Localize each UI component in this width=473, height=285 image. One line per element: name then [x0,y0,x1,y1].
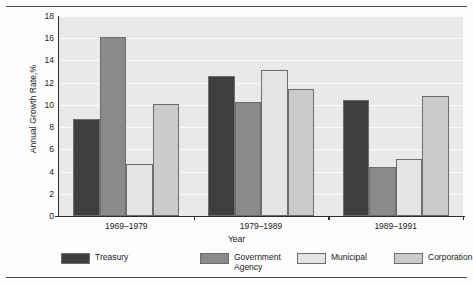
y-axis-tick-label: 0 [28,211,54,221]
plot-wrapper: Annual Growth Rate,% 024681012141618 196… [0,0,473,240]
legend-item[interactable]: Municipal [297,252,367,264]
y-axis-tick-label: 2 [28,189,54,199]
x-axis-group-label: 1989–1991 [374,221,417,231]
legend-label: Municipal [331,252,367,262]
bar [288,89,315,216]
bar [153,104,180,216]
x-axis-tick-mark [463,216,464,220]
gridline [59,16,463,17]
legend-label: Treasury [95,252,128,262]
y-axis-tick-label: 10 [28,100,54,110]
legend-item[interactable]: Treasury [61,252,128,264]
bar [235,102,262,216]
y-axis-tick-label: 6 [28,144,54,154]
bar [343,100,370,216]
legend-swatch [200,253,229,264]
chart-legend: TreasuryGovernment AgencyMunicipalCorpor… [0,252,473,276]
legend-swatch [297,253,326,264]
legend-label: Corporation [428,252,472,262]
x-axis-title: Year [0,234,473,244]
bottom-divider-rule [6,277,467,278]
legend-swatch [394,253,423,264]
x-axis-group-label: 1979–1989 [240,221,283,231]
y-axis-tick-label: 4 [28,167,54,177]
y-axis-tick-label: 18 [28,11,54,21]
y-axis-tick-label: 16 [28,33,54,43]
bar [126,164,153,216]
x-axis-group-label: 1969–1979 [105,221,148,231]
bar [261,70,288,216]
bar [208,76,235,216]
y-axis-tick-label: 12 [28,78,54,88]
x-axis-line [55,216,465,217]
bar [422,96,449,216]
x-axis-tick-mark [194,216,195,220]
x-axis-tick-mark [328,216,329,220]
bar [73,119,100,216]
legend-item[interactable]: Government Agency [200,252,281,272]
plot-area [59,16,463,216]
y-axis-tick-label: 14 [28,55,54,65]
bar [100,37,127,216]
bar [396,159,423,216]
figure-container: Annual Growth Rate,% 024681012141618 196… [0,0,473,285]
legend-label: Government Agency [234,252,281,272]
legend-item[interactable]: Corporation [394,252,472,264]
y-axis-line [58,16,59,216]
bar [369,167,396,216]
legend-swatch [61,253,90,264]
y-axis-tick-label: 8 [28,122,54,132]
y-axis-tick-labels: 024681012141618 [28,16,54,216]
